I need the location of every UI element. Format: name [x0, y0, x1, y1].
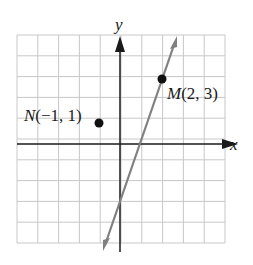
point-n	[95, 119, 104, 128]
x-axis	[17, 139, 238, 149]
y-axis-arrow-icon	[115, 36, 125, 52]
y-axis-label: y	[113, 15, 123, 34]
line-bottom-arrow-icon	[103, 238, 110, 251]
point-m-label: M(2, 3)	[166, 84, 218, 103]
coordinate-plane: y x N(−1, 1) M(2, 3)	[0, 0, 253, 265]
x-axis-label: x	[229, 135, 238, 154]
point-m	[158, 75, 167, 84]
grid-lines	[17, 35, 225, 243]
point-n-label: N(−1, 1)	[23, 106, 82, 125]
line-top-arrow-icon	[170, 36, 177, 49]
